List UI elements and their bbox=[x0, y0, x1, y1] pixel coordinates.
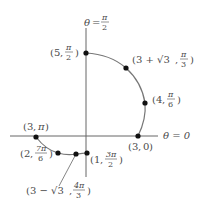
svg-text:3 + √3: 3 + √3 bbox=[136, 54, 170, 65]
point-3minus-root3-4pi-over-3 bbox=[73, 151, 78, 156]
svg-text:2: 2 bbox=[108, 160, 113, 169]
polar-diagram: θ = π 2 θ = 0 ( 5 , π 2 ) ( 3 + √3 , π 3… bbox=[0, 0, 198, 215]
svg-text:3: 3 bbox=[76, 191, 81, 200]
svg-text:): ) bbox=[45, 121, 49, 132]
svg-text:3π: 3π bbox=[106, 150, 117, 159]
point-3plus-root3-pi-over-3 bbox=[123, 65, 128, 70]
svg-text:): ) bbox=[87, 185, 91, 196]
svg-text:2: 2 bbox=[66, 53, 71, 62]
svg-text:): ) bbox=[49, 148, 53, 159]
svg-text:4π: 4π bbox=[73, 181, 85, 190]
svg-text:): ) bbox=[119, 154, 123, 165]
svg-text:): ) bbox=[190, 54, 194, 65]
svg-text:6: 6 bbox=[38, 154, 43, 163]
point-5-pi-over-2 bbox=[83, 50, 88, 55]
svg-text:π: π bbox=[37, 121, 45, 132]
point-4-pi-over-6 bbox=[142, 100, 147, 105]
label-2-7pi-over-6: ( 2 , 7π 6 ) bbox=[20, 144, 53, 163]
svg-text:π: π bbox=[101, 13, 108, 22]
svg-text:π: π bbox=[180, 50, 187, 59]
svg-text:,: , bbox=[60, 47, 63, 58]
svg-text:π: π bbox=[167, 90, 174, 99]
label-4-pi-over-6: ( 4 , π 6 ) bbox=[152, 90, 181, 109]
svg-text:): ) bbox=[177, 94, 181, 105]
svg-text:): ) bbox=[75, 47, 79, 58]
svg-text:3: 3 bbox=[181, 60, 186, 69]
point-3-0 bbox=[135, 133, 140, 138]
svg-text:): ) bbox=[149, 141, 153, 152]
svg-text:,: , bbox=[175, 54, 178, 65]
limacon-curve-upper bbox=[86, 53, 145, 136]
svg-text:=: = bbox=[92, 17, 100, 28]
label-3-0: ( 3 , 0 ) bbox=[128, 141, 153, 152]
label-5-pi-over-2: ( 5 , π 2 ) bbox=[50, 43, 79, 62]
label-3-pi: ( 3 , π ) bbox=[23, 121, 49, 132]
svg-text:π: π bbox=[65, 43, 72, 52]
label-1-3pi-over-2: ( 1 , 3π 2 ) bbox=[90, 150, 123, 169]
polar-axis-label: θ = 0 bbox=[163, 130, 191, 141]
svg-text:6: 6 bbox=[168, 100, 173, 109]
label-3plus-root3-pi-over-3: ( 3 + √3 , π 3 ) bbox=[132, 50, 194, 69]
svg-text:,: , bbox=[30, 148, 33, 159]
point-3-pi bbox=[33, 134, 38, 139]
point-1-3pi-over-2 bbox=[84, 150, 89, 155]
svg-text:,: , bbox=[69, 185, 72, 196]
svg-text:3 − √3: 3 − √3 bbox=[30, 185, 64, 196]
svg-text:,: , bbox=[138, 141, 141, 152]
polar-graph-svg: θ = π 2 θ = 0 ( 5 , π 2 ) ( 3 + √3 , π 3… bbox=[0, 0, 198, 215]
svg-text:2: 2 bbox=[102, 23, 107, 32]
svg-text:,: , bbox=[162, 94, 165, 105]
svg-text:,: , bbox=[33, 121, 36, 132]
svg-text:θ: θ bbox=[84, 17, 90, 28]
svg-text:,: , bbox=[100, 154, 103, 165]
label-3minus-root3-4pi-over-3: ( 3 − √3 , 4π 3 ) bbox=[26, 181, 91, 200]
point-2-7pi-over-6 bbox=[55, 150, 60, 155]
vertical-axis-label: θ = π 2 bbox=[84, 13, 109, 32]
svg-text:7π: 7π bbox=[36, 144, 47, 153]
